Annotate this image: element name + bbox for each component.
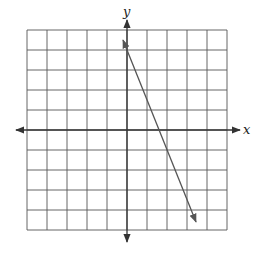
coordinate-plane: x y: [0, 0, 255, 253]
x-axis-label: x: [243, 122, 251, 137]
y-axis-label: y: [122, 4, 131, 19]
plotted-line: [123, 40, 196, 222]
